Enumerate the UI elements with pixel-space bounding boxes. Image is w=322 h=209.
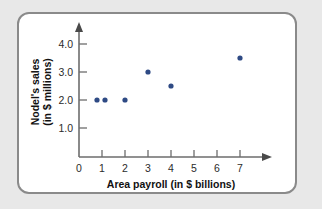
scatter-plot: 4.0 3.0 2.0 1.0 0 1 2 3 4 5 6 7 Area pay…	[19, 14, 295, 192]
x-tick-label-2: 2	[122, 162, 128, 174]
x-axis-arrow-icon	[262, 153, 272, 161]
figure-card: 4.0 3.0 2.0 1.0 0 1 2 3 4 5 6 7 Area pay…	[17, 12, 297, 194]
y-axis-title-line1: Nodel's sales	[29, 58, 41, 125]
x-tick-label-1: 1	[99, 162, 105, 174]
data-point	[145, 69, 150, 74]
data-point	[94, 97, 99, 102]
y-tick-label-4: 4.0	[58, 38, 73, 50]
x-tick-label-6: 6	[214, 162, 220, 174]
x-tick-label-4: 4	[168, 162, 174, 174]
y-tick-label-3: 3.0	[58, 66, 73, 78]
y-axis-title-line2: (in $ millions)	[41, 58, 53, 126]
x-tick-label-0: 0	[76, 162, 82, 174]
data-point	[168, 83, 173, 88]
x-tick-label-3: 3	[145, 162, 151, 174]
data-point	[122, 97, 127, 102]
y-tick-label-1: 1.0	[58, 122, 73, 134]
x-axis-title: Area payroll (in $ billions)	[107, 178, 235, 190]
y-axis-arrow-icon	[75, 22, 83, 32]
data-point	[237, 55, 242, 60]
data-point-series	[94, 55, 242, 102]
x-tick-label-5: 5	[191, 162, 197, 174]
x-tick-label-7: 7	[237, 162, 243, 174]
data-point	[102, 97, 107, 102]
y-tick-label-2: 2.0	[58, 94, 73, 106]
